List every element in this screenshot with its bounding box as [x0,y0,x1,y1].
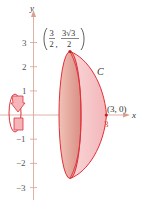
y-numerator: 3√3 [62,28,75,38]
x-numerator: 3 [50,28,54,38]
top-point-label: 3 2 , 3√3 2 [44,28,84,50]
y-tick-label: −1 [16,134,26,144]
x-axis-label: x [131,110,136,120]
curve-label: C [97,66,104,77]
y-tick-label: 3 [22,38,27,48]
right-paren [81,28,84,50]
x-tick-label: 3 [104,119,109,129]
top-point [68,50,71,53]
y-tick-label: −2 [16,158,26,168]
comma: , [56,39,58,49]
y-tick-label: 1 [22,86,27,96]
solid-of-revolution-diagram: 3 2 1 −1 −2 −3 y x 3 C (3, 0) 3 2 , 3√3 … [0,0,145,207]
left-paren [44,28,47,50]
y-axis-label: y [29,3,34,13]
y-denominator: 2 [67,39,71,49]
y-tick-label: 2 [22,62,27,72]
disc-face [59,52,81,179]
rotation-about-x-axis-icon [9,94,25,132]
x-denominator: 2 [50,39,54,49]
y-tick-label: −3 [16,183,26,193]
end-point-label: (3, 0) [107,104,127,114]
